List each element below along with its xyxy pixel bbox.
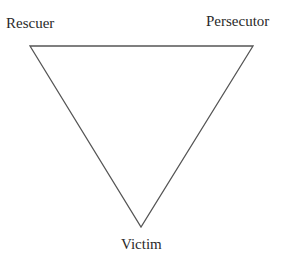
drama-triangle-diagram: Rescuer Persecutor Victim	[0, 0, 286, 265]
label-victim: Victim	[121, 237, 162, 252]
label-rescuer: Rescuer	[6, 16, 54, 31]
triangle-shape	[0, 0, 286, 265]
triangle-outline	[30, 46, 253, 227]
label-persecutor: Persecutor	[206, 14, 269, 29]
